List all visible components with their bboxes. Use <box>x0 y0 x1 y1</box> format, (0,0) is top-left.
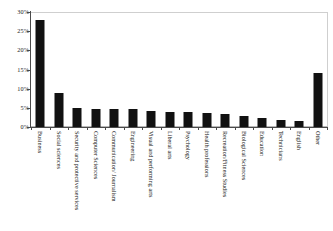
x-axis-tick-mark <box>161 127 162 130</box>
y-axis-tick-label: 30% <box>1 9 29 15</box>
bar-chart: 30%25%20%15%10%5%0% BusinessSocial scien… <box>0 0 333 231</box>
y-axis-tick-label: 10% <box>1 86 29 92</box>
x-axis-label-slot: Education <box>253 131 272 231</box>
x-axis-tick-mark <box>31 127 32 130</box>
y-axis-tick-label: 5% <box>1 105 29 111</box>
x-axis-tick-label: Other <box>314 131 321 145</box>
bar[interactable] <box>239 116 248 128</box>
bar-slot <box>68 12 87 127</box>
x-axis-tick-mark <box>309 127 310 130</box>
bar[interactable] <box>73 108 82 127</box>
y-axis-tick-label: 20% <box>1 47 29 53</box>
bar-slot <box>272 12 291 127</box>
y-axis-tick-label: 15% <box>1 67 29 73</box>
bar[interactable] <box>110 109 119 127</box>
bar-slot <box>31 12 50 127</box>
bar-slot <box>198 12 217 127</box>
bar[interactable] <box>147 111 156 127</box>
x-axis-label-slot: Liberal arts <box>161 131 180 231</box>
x-axis-tick-label: Liberal arts <box>166 131 173 160</box>
y-axis-tick-label: 0% <box>1 124 29 130</box>
bar-slot <box>290 12 309 127</box>
bar[interactable] <box>202 113 211 127</box>
x-axis-tick-label: Recreation/Fitness Studies <box>222 131 229 223</box>
x-axis-label-slot: Security and protective services <box>68 131 87 231</box>
x-axis-label-slot: Business <box>31 131 50 231</box>
x-axis-label-slot: Biological Sciences <box>235 131 254 231</box>
x-axis-tick-label: Technicians <box>277 131 284 161</box>
x-axis-label-slot: Psychology <box>179 131 198 231</box>
bar-series <box>31 12 327 127</box>
x-axis-tick-mark <box>68 127 69 130</box>
x-axis-tick-mark <box>235 127 236 130</box>
bar[interactable] <box>36 20 45 127</box>
x-axis-tick-label: English <box>296 131 303 150</box>
x-axis-label-slot: Technicians <box>272 131 291 231</box>
x-axis-label-slot: English <box>290 131 309 231</box>
x-axis-tick-label: Communication/ Journalism <box>111 131 118 223</box>
x-axis-label-slot: Health professions <box>198 131 217 231</box>
x-axis-label-slot: Communication/ Journalism <box>105 131 124 231</box>
x-axis-label-slot: Visual and performing arts <box>142 131 161 231</box>
bar-slot <box>124 12 143 127</box>
bar[interactable] <box>184 112 193 127</box>
x-axis-tick-label: Engineering <box>129 131 136 161</box>
bar[interactable] <box>313 73 322 127</box>
bar-slot <box>309 12 328 127</box>
x-axis-label-slot: Engineering <box>124 131 143 231</box>
bar[interactable] <box>91 109 100 127</box>
bar-slot <box>50 12 69 127</box>
bar[interactable] <box>54 93 63 128</box>
x-axis-tick-mark <box>327 127 328 130</box>
x-axis-label-slot: Other <box>309 131 328 231</box>
x-axis-tick-mark <box>179 127 180 130</box>
x-axis-tick-mark <box>105 127 106 130</box>
x-axis-tick-label: Visual and performing arts <box>148 131 155 223</box>
x-axis-tick-mark <box>290 127 291 130</box>
x-axis-tick-mark <box>87 127 88 130</box>
bar-slot <box>87 12 106 127</box>
x-axis-tick-label: Computer Sciences <box>92 131 99 223</box>
y-axis-tick-label: 25% <box>1 28 29 34</box>
bar[interactable] <box>221 114 230 127</box>
x-axis-tick-label: Education <box>259 131 266 156</box>
x-axis-label-slot: Social sciences <box>50 131 69 231</box>
x-axis-tick-label: Social sciences <box>55 131 62 169</box>
bar-slot <box>179 12 198 127</box>
bar-slot <box>216 12 235 127</box>
x-axis-ticks <box>31 127 327 130</box>
x-axis-tick-mark <box>124 127 125 130</box>
x-axis-tick-mark <box>253 127 254 130</box>
x-axis-tick-label: Business <box>37 131 44 153</box>
bar-slot <box>235 12 254 127</box>
bar-slot <box>161 12 180 127</box>
bar[interactable] <box>258 118 267 127</box>
bar-slot <box>253 12 272 127</box>
x-axis-tick-label: Psychology <box>185 131 192 160</box>
bar-slot <box>105 12 124 127</box>
x-axis-label-slot: Recreation/Fitness Studies <box>216 131 235 231</box>
x-axis-tick-mark <box>272 127 273 130</box>
bar[interactable] <box>128 109 137 127</box>
x-axis-tick-mark <box>216 127 217 130</box>
x-axis-tick-label: Security and protective services <box>74 131 81 223</box>
bar[interactable] <box>165 112 174 127</box>
x-axis-tick-label: Health professions <box>203 131 210 223</box>
x-axis-tick-mark <box>50 127 51 130</box>
x-axis-label-slot: Computer Sciences <box>87 131 106 231</box>
y-axis-labels: 30%25%20%15%10%5%0% <box>0 0 29 231</box>
x-axis-tick-mark <box>198 127 199 130</box>
x-axis-tick-label: Biological Sciences <box>240 131 247 223</box>
bar-slot <box>142 12 161 127</box>
x-axis-labels: BusinessSocial sciencesSecurity and prot… <box>31 131 327 231</box>
x-axis-tick-mark <box>142 127 143 130</box>
